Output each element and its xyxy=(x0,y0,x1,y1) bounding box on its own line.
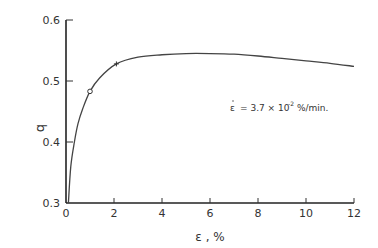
x-tick-label: 8 xyxy=(255,207,262,220)
x-tick-label: 6 xyxy=(207,207,214,220)
x-tick-label: 4 xyxy=(159,207,166,220)
y-tick-label: 0.4 xyxy=(43,136,61,149)
y-tick-label: 0.6 xyxy=(43,14,61,27)
x-tick-label: 2 xyxy=(111,207,118,220)
data-markers xyxy=(88,61,119,93)
y-axis-label: q xyxy=(32,124,47,132)
x-tick-label: 12 xyxy=(347,207,361,220)
x-tick-label: 10 xyxy=(299,207,313,220)
annotation-epsilon-dot: ε xyxy=(230,103,235,113)
chart: 0246810120.30.40.50.6 q ε , % ε = 3.7 × … xyxy=(0,0,378,248)
axis-ticks: 0246810120.30.40.50.6 xyxy=(43,14,362,220)
x-tick-label: 0 xyxy=(63,207,70,220)
data-curve xyxy=(68,53,354,203)
annotation-unit: %/min. xyxy=(297,103,328,113)
circle-marker xyxy=(88,89,93,94)
rate-annotation: ε = 3.7 × 10 -2 %/min. xyxy=(230,100,328,113)
y-tick-label: 0.3 xyxy=(43,197,61,210)
y-tick-label: 0.5 xyxy=(43,75,61,88)
chart-svg: 0246810120.30.40.50.6 q ε , % ε = 3.7 × … xyxy=(0,0,378,248)
annotation-exponent: -2 xyxy=(288,100,294,107)
annotation-value: = 3.7 × 10 xyxy=(240,103,290,113)
x-axis-label: ε , % xyxy=(195,230,224,244)
